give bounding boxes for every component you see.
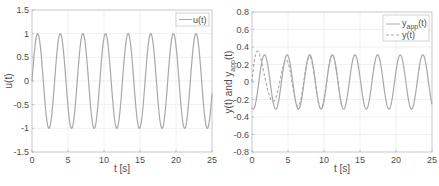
x-tick-label: 15	[135, 155, 145, 165]
y-tick-label: 0.2	[236, 60, 249, 70]
y-tick-label: 1	[24, 29, 29, 39]
x-tick-label: 20	[171, 155, 181, 165]
x-tick-label: 0	[29, 155, 34, 165]
x-tick-label: 25	[427, 155, 437, 165]
y-tick-label: -0.5	[13, 100, 29, 110]
x-tick-label: 15	[355, 155, 365, 165]
y-tick-label: 1.5	[16, 5, 29, 15]
y-tick-label: -0.8	[233, 147, 249, 157]
right-legend-label-y: y(t)	[402, 30, 415, 40]
right-legend: yapp(t) y(t)	[383, 15, 429, 41]
y-tick-label: 0.8	[236, 7, 249, 17]
y-tick-label: 0.5	[16, 52, 29, 62]
y-tick-label: 0.4	[236, 42, 249, 52]
y-tick-label: -0.2	[233, 95, 249, 105]
x-tick-label: 5	[285, 155, 290, 165]
left-plot: 0510152025-1.5-1-0.500.511.5 u(t) t [s] …	[3, 5, 217, 174]
x-tick-label: 10	[99, 155, 109, 165]
right-plot: 0510152025-0.8-0.6-0.4-0.200.20.40.60.8 …	[223, 7, 437, 174]
left-legend-label: u(t)	[193, 15, 207, 25]
y-tick-label: 0	[244, 77, 249, 87]
figure: 0510152025-1.5-1-0.500.511.5 u(t) t [s] …	[0, 0, 439, 186]
y-tick-label: 0.6	[236, 25, 249, 35]
y-tick-label: -1.5	[13, 147, 29, 157]
right-xlabel: t [s]	[334, 163, 350, 174]
left-ylabel: u(t)	[3, 74, 14, 89]
left-legend: u(t)	[176, 13, 209, 26]
x-tick-label: 0	[249, 155, 254, 165]
left-xlabel: t [s]	[114, 163, 130, 174]
y-tick-label: -0.6	[233, 130, 249, 140]
x-tick-label: 10	[319, 155, 329, 165]
x-tick-label: 20	[391, 155, 401, 165]
y-tick-label: 0	[24, 76, 29, 86]
x-tick-label: 25	[207, 155, 217, 165]
y-tick-label: -1	[21, 123, 29, 133]
x-tick-label: 5	[65, 155, 70, 165]
y-tick-label: -0.4	[233, 112, 249, 122]
